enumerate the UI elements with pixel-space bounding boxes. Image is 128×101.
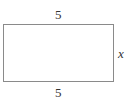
bottom-side-label: 5 — [55, 86, 62, 99]
right-side-label: x — [118, 47, 124, 60]
top-side-label: 5 — [55, 8, 62, 21]
rectangle-shape — [3, 24, 114, 82]
